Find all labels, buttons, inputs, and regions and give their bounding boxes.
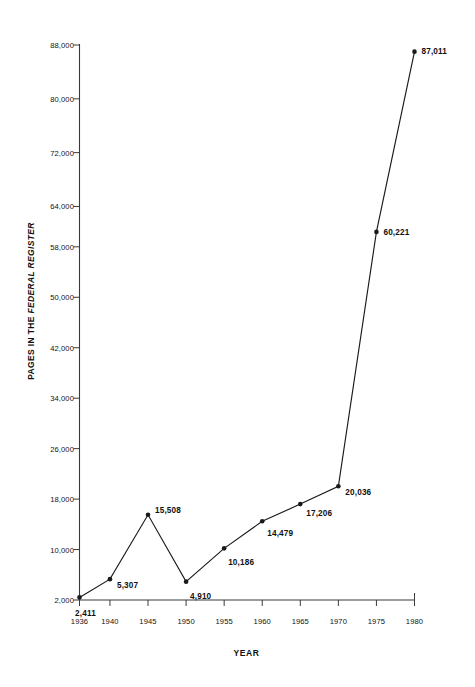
data-point-marker [412,49,417,54]
y-axis-tick-label: 88,000 [30,41,74,50]
data-point-marker [260,519,265,524]
data-series-line [80,52,415,598]
y-axis-tick-label: 64,000 [30,202,74,211]
y-axis-tick-label: 26,000 [30,444,74,453]
data-point-marker [146,513,151,518]
y-axis-tick-label: 72,000 [30,148,74,157]
data-point-label: 4,910 [190,591,211,600]
data-point-label: 60,221 [383,227,409,236]
y-axis-tick-labels: 2,00010,00018,00026,00034,00042,00050,00… [26,0,74,687]
data-point-label: 15,508 [155,505,181,514]
data-point-label: 17,206 [306,509,332,518]
data-point-label: 2,411 [75,609,96,618]
data-point-marker [184,579,189,584]
data-point-marker [222,546,227,551]
data-point-label: 10,186 [228,558,254,567]
data-point-label: 5,307 [117,581,138,590]
y-axis-tick-label: 50,000 [30,293,74,302]
axis-ticks [74,45,415,606]
y-axis-tick-label: 10,000 [30,545,74,554]
data-point-marker [108,577,113,582]
y-axis-tick-label: 80,000 [30,94,74,103]
data-point-marker [374,230,379,235]
data-point-marker [336,484,341,489]
data-point-label: 14,479 [267,529,293,538]
x-axis-title: YEAR [79,648,414,658]
y-axis-tick-label: 2,000 [30,596,74,605]
data-point-label: 87,011 [422,46,448,55]
y-axis-tick-label: 58,000 [30,242,74,251]
data-point-label: 20,036 [345,488,371,497]
x-axis-tick-label: 1980 [392,617,438,626]
y-axis-tick-label: 42,000 [30,343,74,352]
data-point-marker [77,595,82,600]
y-axis-tick-label: 18,000 [30,495,74,504]
axes [80,44,415,600]
y-axis-tick-label: 34,000 [30,394,74,403]
data-point-marker [298,502,303,507]
data-point-markers [77,49,417,599]
federal-register-line-chart: PAGES IN THE FEDERAL REGISTER 2,00010,00… [0,0,475,687]
